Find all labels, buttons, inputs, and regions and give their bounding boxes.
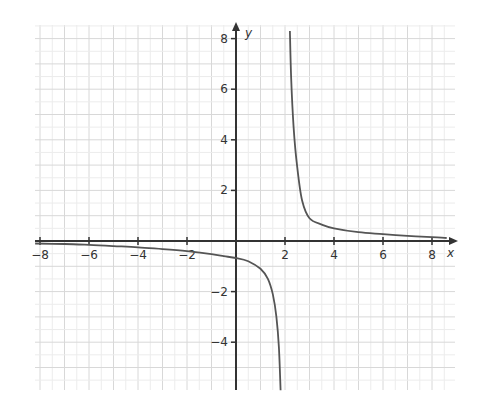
y-axis-arrow	[232, 22, 240, 31]
x-tick-label: −4	[129, 248, 147, 262]
curve-right-branch	[290, 31, 447, 238]
y-tick-label: 4	[220, 133, 228, 147]
axes	[35, 22, 458, 390]
y-axis-label: y	[244, 26, 253, 40]
x-tick-label: −6	[80, 248, 98, 262]
x-axis-label: x	[446, 246, 455, 260]
y-tick-label: −2	[210, 285, 228, 299]
x-tick-label: 8	[428, 248, 436, 262]
x-axis-arrow	[449, 237, 458, 245]
function-graph: −8−6−4−224688642−2−4 x y	[0, 0, 480, 415]
grid	[35, 25, 455, 390]
y-tick-label: 8	[220, 32, 228, 46]
x-tick-label: 4	[330, 248, 338, 262]
curves	[35, 31, 447, 390]
x-tick-label: −8	[31, 248, 49, 262]
y-tick-label: −4	[210, 335, 228, 349]
y-tick-label: 2	[220, 183, 228, 197]
y-tick-label: 6	[220, 82, 228, 96]
x-tick-label: 2	[281, 248, 289, 262]
x-tick-label: 6	[379, 248, 387, 262]
